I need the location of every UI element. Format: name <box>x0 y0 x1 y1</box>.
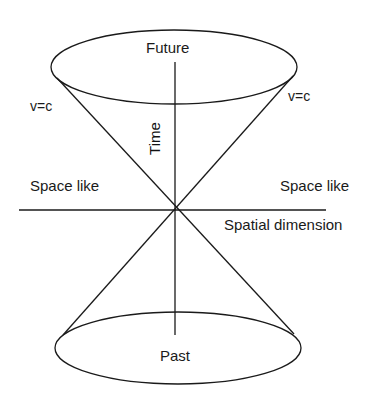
space-like-left-label: Space like <box>30 178 99 193</box>
time-axis-label: Time <box>147 122 162 155</box>
future-label: Future <box>146 40 189 55</box>
v-equals-c-right-label: v=c <box>288 89 310 103</box>
past-label: Past <box>160 348 190 363</box>
space-like-right-label: Space like <box>280 178 349 193</box>
v-equals-c-left-label: v=c <box>30 99 52 113</box>
spatial-dimension-label: Spatial dimension <box>224 217 342 232</box>
light-cone-diagram <box>0 0 386 404</box>
